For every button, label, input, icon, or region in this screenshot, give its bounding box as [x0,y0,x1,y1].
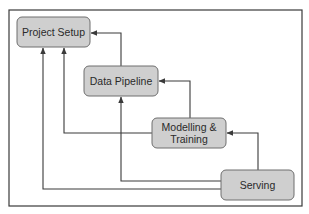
diagram-canvas: Project SetupData PipelineModelling &Tra… [0,0,309,214]
node-label: Data Pipeline [90,75,153,87]
node-label: Modelling & [162,121,217,133]
node-label: Training [170,133,208,145]
node-label: Project Setup [22,26,85,38]
node-serving: Serving [221,170,294,200]
node-project-setup: Project Setup [17,17,90,47]
node-data-pipeline: Data Pipeline [84,66,158,96]
node-modelling-training: Modelling &Training [152,118,226,148]
node-label: Serving [240,179,276,191]
